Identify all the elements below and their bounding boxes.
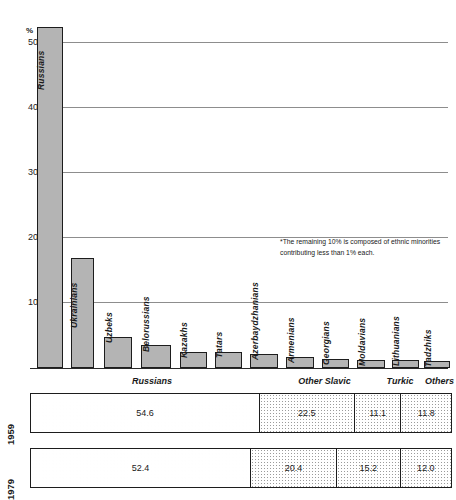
bar-label-azerbaydzhanians: Azerbaydzhanians [250,282,260,360]
bar-label-kazakhs: Kazakhs [179,322,189,358]
cell-1979-russians: 52.4 [31,449,251,487]
nationalities-bar-chart: % 50 40 30 20 10 Russians Ukrainians Uzb… [0,0,456,375]
bar-label-belorussians: Belorussians [141,296,151,352]
chart-footnote: *The remaining 10% is composed of ethnic… [280,237,448,258]
bar-label-tadzhiks: Tadzhiks [423,329,433,367]
table-header-others: Others [425,376,453,386]
y-tick-label-10: 10 [22,302,38,312]
bar-label-ukrainians: Ukrainians [69,283,79,328]
cell-1979-other-slavic: 20.4 [251,449,337,487]
x-axis-baseline [30,368,448,369]
bar-label-georgians: Georgians [321,321,331,365]
cell-1979-turkic: 15.2 [337,449,401,487]
gridline-30 [63,172,448,173]
row-label-1959: 1959 [5,424,16,445]
gridline-50 [63,42,448,43]
table-row-1979: 52.4 20.4 15.2 12.0 [30,448,452,488]
y-tick-label-30: 30 [22,172,38,182]
cell-1959-others: 11.8 [401,394,451,432]
cell-1959-other-slavic: 22.5 [260,394,355,432]
table-header-other-slavic: Other Slavic [274,376,375,386]
row-label-1979: 1979 [5,479,16,500]
table-row-1959: 54.6 22.5 11.1 11.8 [30,393,452,433]
cell-1959-russians: 54.6 [31,394,260,432]
y-tick-label-20: 20 [22,237,38,247]
table-header-turkic: Turkic [375,376,425,386]
cell-1979-others: 12.0 [401,449,451,487]
bar-label-moldavians: Moldavians [357,318,367,366]
bar-label-russians: Russians [36,51,46,90]
bar-label-lithuanians: Lithuanians [391,316,401,366]
y-axis-unit-label: % [26,26,33,35]
y-tick-label-40: 40 [22,107,38,117]
bar-label-uzbeks: Uzbeks [104,312,114,343]
gridline-40 [63,107,448,108]
composition-comparison-table: Russians Other Slavic Turkic Others 1959… [0,375,456,489]
table-header-russians: Russians [30,376,274,386]
bar-label-tatars: Tatars [214,332,224,358]
bar-label-armenians: Armenians [286,317,296,363]
cell-1959-turkic: 11.1 [355,394,402,432]
